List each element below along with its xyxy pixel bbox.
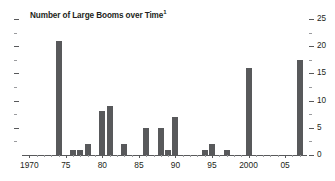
- x-tick-minor: [234, 155, 235, 157]
- x-tick-minor: [59, 155, 60, 157]
- x-tick-major: [212, 155, 213, 158]
- bar: [158, 128, 164, 155]
- x-axis-label: 2000: [239, 160, 258, 170]
- y-axis-label: 10: [317, 97, 326, 105]
- y-tick-major: [309, 19, 314, 20]
- x-tick-major: [175, 155, 176, 158]
- x-tick-minor: [241, 155, 242, 157]
- x-tick-minor: [95, 155, 96, 157]
- bar: [107, 106, 113, 155]
- x-axis-label: 05: [280, 160, 289, 170]
- x-tick-minor: [300, 155, 301, 157]
- x-tick-minor: [256, 155, 257, 157]
- x-tick-major: [102, 155, 103, 158]
- chart-figure: Number of Large Booms over Time1 0510152…: [0, 0, 335, 181]
- x-axis-label: 95: [207, 160, 216, 170]
- y-tick-major: [14, 128, 19, 129]
- x-tick-minor: [124, 155, 125, 157]
- x-tick-minor: [278, 155, 279, 157]
- y-tick-minor: [14, 141, 17, 142]
- bar: [85, 144, 91, 155]
- x-tick-minor: [37, 155, 38, 157]
- bar: [56, 41, 62, 155]
- y-tick-minor: [14, 60, 17, 61]
- x-tick-minor: [227, 155, 228, 157]
- y-tick-minor: [309, 141, 312, 142]
- bar: [297, 60, 303, 155]
- y-tick-major: [14, 73, 19, 74]
- y-tick-major: [14, 19, 19, 20]
- y-tick-major: [309, 155, 314, 156]
- x-tick-minor: [263, 155, 264, 157]
- x-tick-minor: [292, 155, 293, 157]
- bar: [172, 117, 178, 155]
- x-axis-label: 1970: [20, 160, 39, 170]
- x-tick-minor: [168, 155, 169, 157]
- x-tick-minor: [205, 155, 206, 157]
- x-tick-major: [66, 155, 67, 158]
- x-axis-label: 80: [98, 160, 107, 170]
- x-axis-label: 85: [134, 160, 143, 170]
- plot-area: [22, 14, 300, 155]
- y-tick-major: [309, 128, 314, 129]
- x-tick-minor: [183, 155, 184, 157]
- y-tick-minor: [309, 87, 312, 88]
- x-tick-minor: [117, 155, 118, 157]
- x-tick-minor: [51, 155, 52, 157]
- x-tick-minor: [110, 155, 111, 157]
- x-axis-label: 75: [61, 160, 70, 170]
- y-axis-label: 0: [317, 151, 322, 159]
- bar: [209, 144, 215, 155]
- y-axis-label: 15: [317, 69, 326, 77]
- y-tick-major: [14, 46, 19, 47]
- x-tick-major: [285, 155, 286, 158]
- x-tick-minor: [44, 155, 45, 157]
- y-tick-minor: [309, 60, 312, 61]
- bar: [121, 144, 127, 155]
- x-tick-minor: [270, 155, 271, 157]
- x-tick-minor: [219, 155, 220, 157]
- y-tick-minor: [14, 114, 17, 115]
- y-axis-label: 25: [317, 15, 326, 23]
- y-tick-major: [14, 101, 19, 102]
- y-tick-minor: [14, 87, 17, 88]
- x-tick-minor: [154, 155, 155, 157]
- y-tick-major: [309, 101, 314, 102]
- x-tick-minor: [146, 155, 147, 157]
- x-tick-minor: [197, 155, 198, 157]
- bar: [99, 111, 105, 155]
- x-tick-minor: [73, 155, 74, 157]
- x-axis-line: [22, 155, 307, 156]
- x-tick-major: [249, 155, 250, 158]
- bar: [246, 68, 252, 155]
- x-tick-major: [139, 155, 140, 158]
- x-tick-major: [29, 155, 30, 158]
- y-tick-minor: [309, 114, 312, 115]
- x-tick-minor: [132, 155, 133, 157]
- y-tick-minor: [309, 33, 312, 34]
- x-tick-minor: [190, 155, 191, 157]
- bar: [143, 128, 149, 155]
- x-tick-minor: [80, 155, 81, 157]
- y-axis-label: 5: [317, 124, 322, 132]
- y-tick-minor: [14, 33, 17, 34]
- y-axis-label: 20: [317, 42, 326, 50]
- y-tick-major: [309, 46, 314, 47]
- x-tick-minor: [161, 155, 162, 157]
- x-axis-label: 90: [171, 160, 180, 170]
- y-tick-major: [309, 73, 314, 74]
- x-tick-minor: [88, 155, 89, 157]
